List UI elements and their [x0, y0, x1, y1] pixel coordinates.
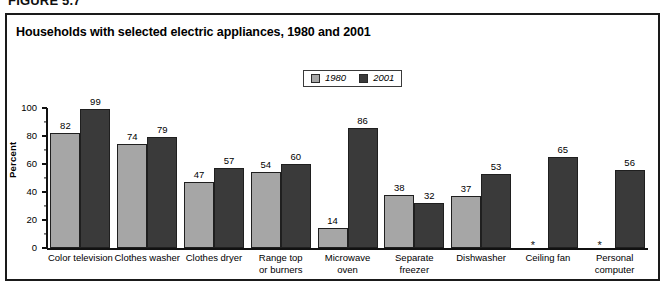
bar-group: *56 — [581, 108, 648, 248]
bar-groups: 8299747947575460148638323753*65*56 — [47, 108, 648, 248]
bar-2001[interactable] — [548, 157, 578, 248]
y-tick-100: 100 — [17, 103, 47, 113]
bar-1980[interactable] — [451, 196, 481, 248]
bar-value-label: 99 — [90, 97, 101, 107]
y-tick-20: 20 — [17, 215, 47, 225]
bar-2001[interactable] — [414, 203, 444, 248]
bar-2001[interactable] — [80, 109, 110, 248]
bar-2001[interactable] — [481, 174, 511, 248]
y-tick-90 — [19, 121, 47, 122]
legend-swatch-1980 — [311, 74, 320, 83]
figure-title: Households with selected electric applia… — [16, 25, 371, 39]
bar-value-label: 37 — [461, 184, 472, 194]
bar-group: 7479 — [114, 108, 181, 248]
bar-value-label: 32 — [424, 191, 435, 201]
category-label: Range top or burners — [247, 252, 314, 275]
y-tick-30 — [19, 205, 47, 206]
category-label: Clothes dryer — [181, 252, 248, 275]
bar-slot: 14 — [318, 108, 348, 248]
bar-1980[interactable] — [251, 172, 281, 248]
bar-slot: 53 — [481, 108, 511, 248]
bar-2001[interactable] — [147, 137, 177, 248]
figure-number: FIGURE 5.7 — [8, 0, 81, 8]
y-tick-label: 100 — [17, 103, 37, 113]
y-tick-10 — [19, 233, 47, 234]
y-tick-label: 0 — [17, 243, 37, 253]
bar-slot: * — [518, 108, 548, 248]
bar-value-label: 86 — [357, 116, 368, 126]
legend-item-1980: 1980 — [311, 73, 346, 83]
y-tick-label: 40 — [17, 187, 37, 197]
bar-slot: 56 — [615, 108, 645, 248]
bar-2001[interactable] — [214, 168, 244, 248]
bar-slot: 82 — [50, 108, 80, 248]
legend-label-1980: 1980 — [325, 73, 346, 83]
bar-1980[interactable] — [50, 133, 80, 248]
category-label: Clothes washer — [114, 252, 181, 275]
bar-value-label: 53 — [491, 162, 502, 172]
bar-slot: 74 — [117, 108, 147, 248]
bar-1980[interactable] — [184, 182, 214, 248]
bar-value-label: 57 — [224, 156, 235, 166]
y-tick-70 — [19, 149, 47, 150]
bar-slot: 86 — [348, 108, 378, 248]
bar-1980[interactable] — [318, 228, 348, 248]
bar-value-label: 38 — [394, 183, 405, 193]
bar-group: 1486 — [314, 108, 381, 248]
bar-1980[interactable] — [384, 195, 414, 248]
chart-legend: 1980 2001 — [303, 70, 402, 87]
bar-value-label: 82 — [60, 121, 71, 131]
y-tick-label: 60 — [17, 159, 37, 169]
bar-slot: 99 — [80, 108, 110, 248]
bar-group: 8299 — [47, 108, 114, 248]
bar-group: *65 — [514, 108, 581, 248]
y-tick-label: 20 — [17, 215, 37, 225]
y-tick-label: 80 — [17, 131, 37, 141]
y-tick-60: 60 — [17, 159, 47, 169]
bar-value-label: 14 — [327, 216, 338, 226]
bar-value-label: 56 — [624, 158, 635, 168]
bar-value-label: 54 — [260, 160, 271, 170]
y-tick-50 — [19, 177, 47, 178]
y-tick-80: 80 — [17, 131, 47, 141]
bar-group: 4757 — [181, 108, 248, 248]
bar-slot: 60 — [281, 108, 311, 248]
bar-slot: 47 — [184, 108, 214, 248]
bar-1980[interactable] — [117, 144, 147, 248]
category-label: Separate freezer — [381, 252, 448, 275]
bar-slot: 65 — [548, 108, 578, 248]
bar-group: 3753 — [448, 108, 515, 248]
bar-slot: 38 — [384, 108, 414, 248]
y-tick-0: 0 — [17, 243, 47, 253]
bar-value-label: 60 — [290, 152, 301, 162]
bar-2001[interactable] — [615, 170, 645, 248]
bar-slot: 37 — [451, 108, 481, 248]
bar-slot: 57 — [214, 108, 244, 248]
figure-page: FIGURE 5.7 Households with selected elec… — [0, 0, 666, 285]
y-tick-40: 40 — [17, 187, 47, 197]
category-label: Ceiling fan — [514, 252, 581, 275]
bar-value-label: 74 — [127, 132, 138, 142]
x-axis-line — [47, 248, 648, 250]
x-axis-categories: Color televisionClothes washerClothes dr… — [47, 252, 648, 275]
category-label: Color television — [47, 252, 114, 275]
category-label: Personal computer — [581, 252, 648, 275]
bar-value-label: 65 — [558, 145, 569, 155]
legend-swatch-2001 — [359, 74, 368, 83]
bar-value-label: 79 — [157, 125, 168, 135]
plot-area: 020406080100 829974794757546014863832375… — [47, 108, 648, 248]
bar-value-label: 47 — [194, 170, 205, 180]
bar-2001[interactable] — [281, 164, 311, 248]
bar-not-available-marker: * — [598, 242, 602, 248]
legend-item-2001: 2001 — [359, 73, 394, 83]
legend-label-2001: 2001 — [373, 73, 394, 83]
bar-slot: * — [585, 108, 615, 248]
bar-2001[interactable] — [348, 128, 378, 248]
category-label: Microwave oven — [314, 252, 381, 275]
bar-group: 5460 — [247, 108, 314, 248]
bar-slot: 32 — [414, 108, 444, 248]
category-label: Dishwasher — [448, 252, 515, 275]
bar-not-available-marker: * — [531, 242, 535, 248]
bar-slot: 54 — [251, 108, 281, 248]
bar-group: 3832 — [381, 108, 448, 248]
